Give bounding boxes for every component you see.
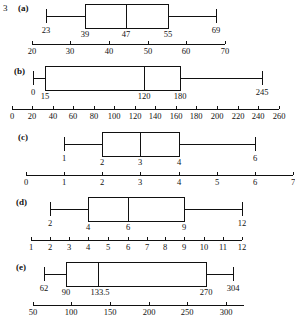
panel-e-min-value: 62 xyxy=(40,283,49,293)
panel-b-max-value: 245 xyxy=(256,87,269,97)
panel-d-tick-2: 3 xyxy=(67,242,71,252)
panel-e-tick-1: 100 xyxy=(65,307,78,317)
panel-d-min-value: 2 xyxy=(48,218,52,228)
panel-d-max-value: 12 xyxy=(238,218,247,228)
panel-c-q1-value: 2 xyxy=(100,157,104,167)
panel-b-tick-4: 80 xyxy=(90,111,99,121)
panel-b-min-value: 0 xyxy=(31,87,35,97)
panel-c-tick-6: 6 xyxy=(253,177,257,187)
panel-e-q1-value: 90 xyxy=(62,287,71,297)
panel-b: (b) 0 15 120 180 245 xyxy=(10,66,286,121)
box-plot-figure: 3 (a) 23 39 47 55 69 xyxy=(0,0,295,322)
panel-a-tick-5: 70 xyxy=(221,46,230,56)
panel-d-tick-7: 8 xyxy=(163,242,167,252)
panel-a-tick-0: 20 xyxy=(28,46,37,56)
panel-d-tick-11: 12 xyxy=(238,242,247,252)
panel-a-q1-value: 39 xyxy=(81,29,90,39)
panel-e: (e) 62 90 133.5 270 304 50 100 1 xyxy=(16,262,244,317)
panel-a-tick-4: 60 xyxy=(182,46,191,56)
panel-b-label: (b) xyxy=(14,66,25,76)
panel-d-box xyxy=(88,197,184,221)
panel-c-min-value: 1 xyxy=(62,153,66,163)
panel-b-tick-13: 260 xyxy=(273,111,286,121)
panel-a-tick-1: 30 xyxy=(66,46,75,56)
panel-e-tick-4: 250 xyxy=(181,307,194,317)
panel-a-max-value: 69 xyxy=(212,25,221,35)
panel-e-label: (e) xyxy=(16,262,26,272)
panel-a: (a) 23 39 47 55 69 xyxy=(18,3,229,56)
panel-a-tick-2: 40 xyxy=(105,46,114,56)
panel-d-tick-1: 2 xyxy=(48,242,52,252)
panel-c-tick-2: 2 xyxy=(100,177,104,187)
panel-e-tick-5: 300 xyxy=(220,307,233,317)
question-number: 3 xyxy=(3,3,8,13)
panel-b-median-value: 120 xyxy=(138,91,151,101)
panel-a-min-value: 23 xyxy=(42,25,51,35)
panel-c-median-value: 3 xyxy=(138,157,142,167)
panel-d-label: (d) xyxy=(16,197,27,207)
panel-c-tick-3: 3 xyxy=(138,177,142,187)
panel-b-tick-9: 180 xyxy=(190,111,203,121)
panel-d-tick-3: 4 xyxy=(86,242,91,252)
panel-c-tick-0: 0 xyxy=(24,177,28,187)
panel-d-tick-0: 1 xyxy=(29,242,33,252)
panel-b-tick-8: 160 xyxy=(170,111,183,121)
panel-c: (c) 1 2 3 4 6 0 1 xyxy=(18,132,295,187)
panel-b-tick-7: 140 xyxy=(149,111,162,121)
panel-b-tick-6: 120 xyxy=(129,111,142,121)
panel-b-tick-10: 200 xyxy=(211,111,224,121)
panel-e-tick-3: 200 xyxy=(143,307,156,317)
panel-b-tick-5: 100 xyxy=(108,111,121,121)
panel-d-tick-10: 11 xyxy=(219,242,227,252)
panel-c-q3-value: 4 xyxy=(177,157,182,167)
panel-c-tick-4: 4 xyxy=(177,177,182,187)
panel-a-label: (a) xyxy=(18,3,29,13)
panel-d-tick-6: 7 xyxy=(145,242,149,252)
panel-b-q3-value: 180 xyxy=(174,91,187,101)
panel-e-q3-value: 270 xyxy=(200,287,213,297)
panel-c-tick-7: 7 xyxy=(291,177,295,187)
panel-c-max-value: 6 xyxy=(253,153,257,163)
panel-a-q3-value: 55 xyxy=(164,29,173,39)
panel-a-median-value: 47 xyxy=(122,29,131,39)
panel-c-tick-5: 5 xyxy=(215,177,219,187)
panel-b-box xyxy=(45,66,180,90)
panel-b-tick-3: 60 xyxy=(69,111,78,121)
panel-b-tick-2: 40 xyxy=(49,111,58,121)
panel-b-tick-12: 240 xyxy=(252,111,265,121)
panel-c-tick-1: 1 xyxy=(62,177,66,187)
panel-e-tick-0: 50 xyxy=(29,307,38,317)
panel-d-median-value: 6 xyxy=(126,222,130,232)
panel-d: (d) 2 4 6 9 12 xyxy=(16,197,246,252)
panel-e-box xyxy=(66,262,206,286)
panel-d-q3-value: 9 xyxy=(182,222,186,232)
panel-d-tick-4: 5 xyxy=(106,242,110,252)
panel-c-label: (c) xyxy=(18,132,28,142)
panel-e-tick-2: 150 xyxy=(104,307,117,317)
panel-d-tick-9: 10 xyxy=(200,242,209,252)
panel-b-q1-value: 15 xyxy=(41,91,50,101)
panel-b-tick-1: 20 xyxy=(28,111,37,121)
panel-d-tick-5: 6 xyxy=(126,242,130,252)
panel-d-q1-value: 4 xyxy=(86,222,91,232)
panel-e-median-value: 133.5 xyxy=(90,287,109,297)
panel-b-tick-11: 220 xyxy=(232,111,245,121)
panel-e-max-value: 304 xyxy=(227,283,241,293)
panel-b-tick-0: 0 xyxy=(10,111,14,121)
panel-a-tick-3: 50 xyxy=(144,46,153,56)
box-plots-svg: 3 (a) 23 39 47 55 69 xyxy=(0,0,295,322)
panel-d-tick-8: 9 xyxy=(182,242,186,252)
